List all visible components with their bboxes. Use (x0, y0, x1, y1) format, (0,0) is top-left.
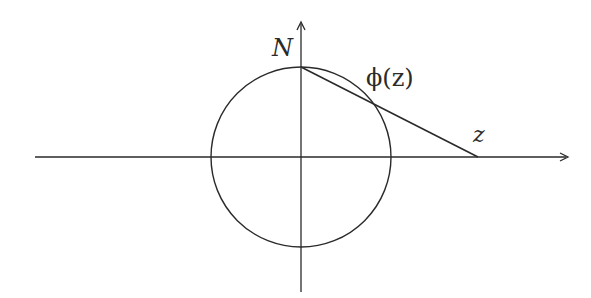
point-z-label: z (472, 122, 485, 147)
north-pole-label: N (271, 34, 294, 62)
stereographic-projection-diagram: N ϕ(z) z (0, 0, 591, 298)
projection-point-label: ϕ(z) (366, 64, 414, 92)
